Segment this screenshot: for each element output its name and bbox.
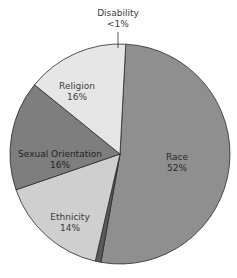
pie-chart [0, 0, 237, 278]
label-sexual-orientation-value: 16% [18, 160, 102, 171]
label-ethnicity: Ethnicity 14% [50, 212, 89, 234]
label-religion: Religion 16% [59, 81, 95, 103]
label-race-name: Race [166, 152, 188, 163]
label-sexual-orientation: Sexual Orientation 16% [18, 149, 102, 171]
label-ethnicity-name: Ethnicity [50, 212, 89, 223]
label-sexual-orientation-name: Sexual Orientation [18, 149, 102, 160]
label-race: Race 52% [166, 152, 188, 174]
label-race-value: 52% [166, 163, 188, 174]
label-disability: Disability <1% [97, 8, 139, 30]
label-disability-name: Disability [97, 8, 139, 19]
label-ethnicity-value: 14% [50, 223, 89, 234]
label-religion-name: Religion [59, 81, 95, 92]
label-religion-value: 16% [59, 92, 95, 103]
label-disability-value: <1% [97, 19, 139, 30]
